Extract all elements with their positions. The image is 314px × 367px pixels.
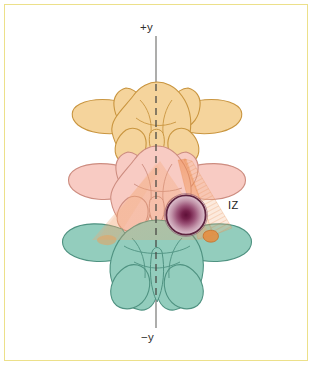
target-lesion[interactable]	[165, 194, 208, 237]
injection-zone-label: IZ	[228, 199, 239, 211]
vertebrae-diagram-canvas	[0, 0, 314, 367]
axis-label-negative-y: −y	[141, 331, 154, 343]
axis-label-positive-y: +y	[140, 21, 153, 33]
figure-root: +y −y IZ	[0, 0, 314, 367]
